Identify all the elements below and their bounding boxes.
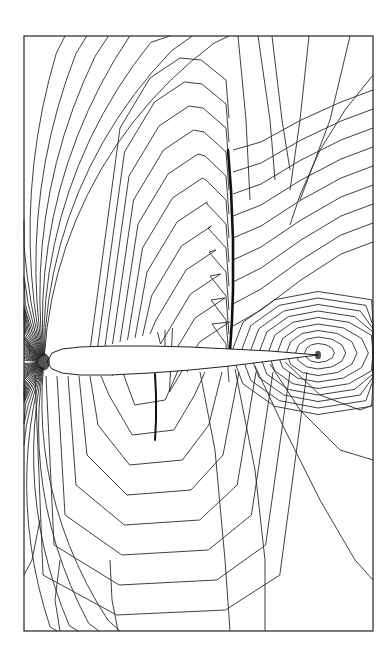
contour-line: [35, 372, 307, 615]
leading-edge-stagnation-marker: [38, 354, 50, 371]
contour-line: [200, 372, 230, 631]
plot-frame: [24, 36, 373, 631]
contour-line: [233, 109, 373, 172]
contour-figure: [0, 0, 391, 666]
contour-line: [79, 372, 239, 495]
contour-line: [300, 36, 350, 200]
contour-line: [233, 128, 373, 194]
contour-line: [120, 154, 229, 342]
contour-line: [143, 226, 230, 336]
contour-line: [42, 36, 129, 356]
contour-line: [290, 36, 309, 190]
contour-line: [68, 372, 256, 525]
airfoil-shape: [47, 346, 318, 375]
contour-line: [105, 106, 229, 346]
contour-line: [233, 185, 373, 260]
contour-line: [128, 178, 230, 340]
contour-line: [101, 372, 205, 435]
contour-line: [233, 223, 373, 304]
contour-line: [42, 368, 120, 631]
contour-line: [233, 204, 373, 282]
contour-line: [296, 337, 346, 369]
contour-line: [258, 36, 275, 180]
contour-line: [233, 147, 373, 216]
contour-line: [24, 520, 40, 575]
contour-line: [238, 36, 250, 200]
contour-plot-svg: [0, 0, 391, 666]
contour-line: [110, 560, 118, 631]
upper-shock: [228, 150, 233, 350]
contour-line: [255, 366, 373, 580]
contour-line: [272, 36, 290, 170]
contour-line: [233, 90, 373, 150]
contour-line: [44, 36, 170, 355]
contour-line: [46, 372, 290, 585]
contour-line: [233, 166, 373, 238]
contour-lines: [24, 36, 373, 631]
trailing-edge-wake-marker: [315, 351, 321, 359]
contour-line: [135, 202, 229, 338]
contour-line: [36, 36, 87, 356]
contour-line: [150, 250, 229, 334]
lower-shock: [155, 374, 156, 440]
